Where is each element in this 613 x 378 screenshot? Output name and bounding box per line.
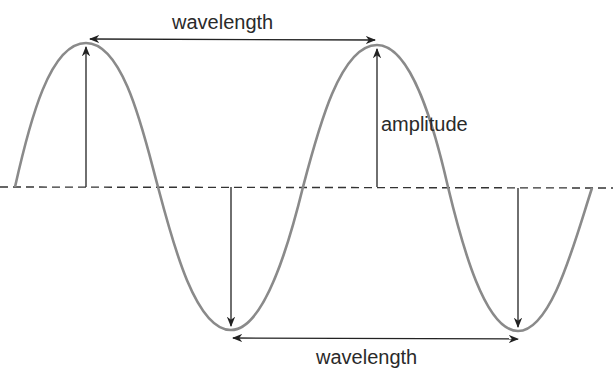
wavelength-label-top: wavelength [172,12,273,32]
wave-diagram: wavelength amplitude wavelength [0,0,613,378]
wavelength-arrow-bottom [233,338,518,339]
wavelength-label-bottom: wavelength [316,347,417,367]
wave-diagram-graphic [0,0,613,378]
amplitude-label: amplitude [381,114,468,134]
sine-wave [15,43,592,331]
equilibrium-axis [0,187,613,188]
wavelength-arrow-top [90,39,375,40]
